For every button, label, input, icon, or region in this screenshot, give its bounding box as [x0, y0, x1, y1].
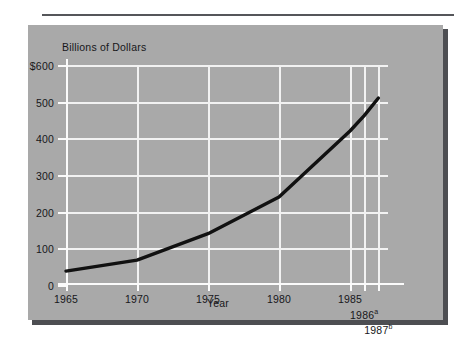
- y-axis-tick-label: $600: [30, 60, 54, 72]
- x-axis-tick-label: 1980: [267, 293, 291, 305]
- x-axis-tick: [378, 285, 380, 291]
- x-axis-tick-label: 1965: [54, 293, 78, 305]
- x-axis-tick: [350, 285, 352, 291]
- y-axis-tick-label: 100: [36, 243, 54, 255]
- x-axis-tick-label: 1985: [338, 293, 362, 305]
- plot-area: $6005004003002001000 1965197019751980198…: [66, 65, 386, 285]
- chart-panel: Billions of Dollars Year $60050040030020…: [28, 25, 443, 320]
- x-axis-tick-label: 1987b: [364, 323, 392, 336]
- y-axis-title: Billions of Dollars: [62, 41, 146, 53]
- y-axis-tick-label: 200: [36, 207, 54, 219]
- x-axis-tick: [279, 285, 281, 291]
- y-axis-tick: [58, 138, 66, 140]
- y-axis-tick: [58, 65, 66, 67]
- y-axis-tick: [58, 102, 66, 104]
- top-rule-divider: [42, 14, 454, 16]
- x-axis-tick-label: 1986a: [350, 308, 378, 321]
- y-axis-tick: [58, 175, 66, 177]
- x-axis-tick: [208, 285, 210, 291]
- data-series-line: [66, 65, 386, 285]
- figure-page: Billions of Dollars Year $60050040030020…: [0, 0, 465, 345]
- x-axis-tick-label: 1970: [125, 293, 149, 305]
- y-axis-tick-label: 500: [36, 97, 54, 109]
- y-axis-tick: [58, 248, 66, 250]
- x-axis-tick: [364, 285, 366, 291]
- x-axis-tick-label: 1975: [196, 293, 220, 305]
- y-axis-tick-label: 300: [36, 170, 54, 182]
- y-axis-tick-label: 400: [36, 133, 54, 145]
- y-axis-tick: [58, 212, 66, 214]
- x-axis-tick: [137, 285, 139, 291]
- y-axis-tick: [58, 285, 66, 287]
- y-axis-tick-label: 0: [48, 280, 54, 292]
